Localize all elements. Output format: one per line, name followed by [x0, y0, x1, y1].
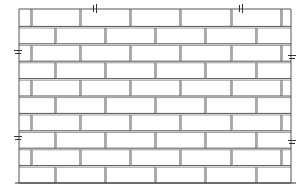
brick-wall-diagram — [0, 0, 306, 196]
